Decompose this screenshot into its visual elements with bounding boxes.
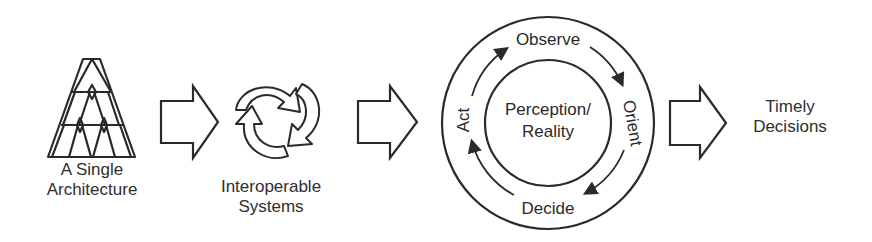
ooda-step-decide: Decide (522, 199, 575, 218)
flow-arrow-1 (161, 86, 218, 158)
ooda-step-observe: Observe (516, 30, 580, 49)
ooda-step-act: Act (454, 107, 473, 132)
label-line: Systems (206, 197, 336, 217)
ooda-center-line2: Reality (522, 122, 574, 141)
ooda-step-orient: Orient (619, 99, 646, 148)
flow-arrow-2 (358, 86, 417, 158)
cycle-arrow-orient-decide (586, 150, 624, 193)
label-line: Decisions (735, 117, 845, 137)
label-interoperable-systems: Interoperable Systems (206, 177, 336, 217)
label-timely-decisions: Timely Decisions (735, 97, 845, 137)
cycle-arrow-act-observe (472, 49, 506, 96)
cycle-arrow-decide-act (472, 142, 514, 195)
label-line: Interoperable (206, 177, 336, 197)
interlocking-arrows-icon (236, 84, 319, 158)
flow-arrow-3 (670, 87, 726, 158)
label-line: A Single (30, 160, 154, 180)
label-single-architecture: A Single Architecture (30, 160, 154, 200)
label-line: Architecture (30, 180, 154, 200)
label-line: Timely (735, 97, 845, 117)
cycle-arrow-observe-orient (590, 47, 622, 84)
building-blocks-icon (48, 59, 135, 157)
ooda-center-line1: Perception/ (505, 100, 591, 119)
